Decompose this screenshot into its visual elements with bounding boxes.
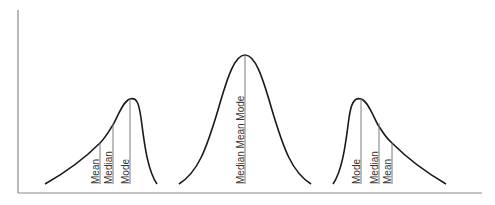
left-mean-label: Mean [90, 159, 101, 184]
left-mode-label: Mode [120, 159, 131, 184]
negatively-skewed-distribution: Mean Median Mode [45, 99, 157, 184]
left-skewed-curve [45, 99, 157, 184]
symmetric-distribution: Median Mean Mode [179, 55, 311, 184]
right-mean-label: Mean [382, 159, 393, 184]
distribution-diagram: Mean Median Mode Median Mean Mode Mode M… [0, 0, 495, 205]
median-mean-mode-label: Median Mean Mode [235, 95, 246, 184]
positively-skewed-distribution: Mode Median Mean [333, 99, 446, 184]
right-mode-label: Mode [351, 159, 362, 184]
axes [18, 10, 482, 193]
right-median-label: Median [369, 151, 380, 184]
left-median-label: Median [103, 151, 114, 184]
